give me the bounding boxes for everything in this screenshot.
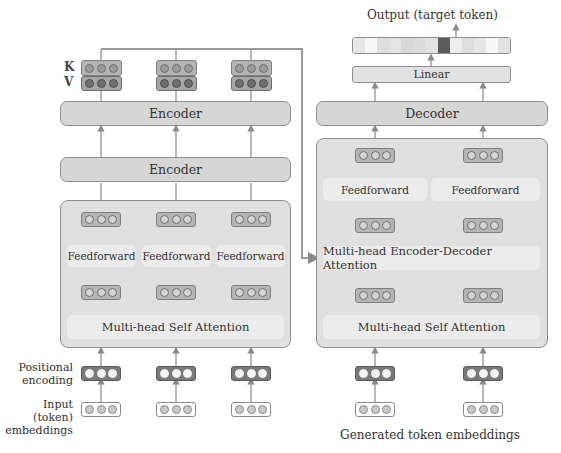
- decoder-cross-attention-output-vector-2: [463, 218, 503, 233]
- output-cell: [377, 38, 389, 53]
- positional-encoding-vector-2: [156, 366, 196, 381]
- k-label: K: [64, 60, 74, 74]
- decoder-self-attention-output-vector-2: [463, 288, 503, 303]
- positional-encoding-vector-1: [81, 366, 121, 381]
- generated-embedding-vector-1: [355, 402, 395, 417]
- decoder-feedforward-2: Feedforward: [431, 178, 540, 201]
- decoder-ffn-output-vector-1: [355, 148, 395, 163]
- output-cell: [365, 38, 377, 53]
- positional-encoding-label: Positional encoding: [0, 361, 73, 387]
- decoder-top: Decoder: [316, 101, 548, 126]
- encoder-ffn-output-vector-1: [81, 212, 121, 227]
- input-embedding-vector-1: [81, 402, 121, 417]
- encoder-self-attention: Multi-head Self Attention: [67, 315, 284, 339]
- decoder-positional-encoding-vector-2: [463, 366, 503, 381]
- output-distribution: [352, 37, 511, 54]
- generated-embeddings-label: Generated token embeddings: [330, 428, 530, 442]
- encoder-top: Encoder: [60, 101, 291, 126]
- positional-encoding-vector-3: [231, 366, 271, 381]
- output-cell: [462, 38, 474, 53]
- output-cell: [498, 38, 510, 53]
- key-vector-2: [156, 60, 197, 76]
- positional-encoding-line1: Positional: [0, 361, 73, 374]
- input-embeddings-line1: Input (token): [0, 398, 73, 424]
- decoder-cross-attention-output-vector-1: [355, 218, 395, 233]
- input-embedding-vector-3: [231, 402, 271, 417]
- encoder-attention-output-vector-2: [156, 285, 196, 300]
- input-embedding-vector-2: [156, 402, 196, 417]
- input-embeddings-label: Input (token) embeddings: [0, 398, 73, 437]
- output-cell: [486, 38, 498, 53]
- encoder-second: Encoder: [60, 157, 291, 182]
- positional-encoding-line2: encoding: [0, 374, 73, 387]
- value-vector-1: [81, 76, 122, 91]
- encoder-ffn-output-vector-3: [231, 212, 271, 227]
- key-vector-3: [231, 60, 272, 76]
- encoder-attention-output-vector-1: [81, 285, 121, 300]
- decoder-self-attention: Multi-head Self Attention: [323, 315, 540, 339]
- value-vector-3: [231, 76, 272, 91]
- encoder-attention-output-vector-3: [231, 285, 271, 300]
- output-cell: [425, 38, 437, 53]
- encoder-decoder-attention: Multi-head Encoder-Decoder Attention: [323, 246, 540, 270]
- output-cell: [353, 38, 365, 53]
- decoder-ffn-output-vector-2: [463, 148, 503, 163]
- value-vector-2: [156, 76, 197, 91]
- decoder-feedforward-1: Feedforward: [323, 178, 427, 201]
- encoder-ffn-output-vector-2: [156, 212, 196, 227]
- output-cell: [474, 38, 486, 53]
- output-cell: [401, 38, 413, 53]
- output-cell: [450, 38, 462, 53]
- linear-layer: Linear: [352, 66, 511, 83]
- encoder-feedforward-1: Feedforward: [67, 245, 136, 267]
- input-embeddings-line2: embeddings: [0, 424, 73, 437]
- decoder-positional-encoding-vector-1: [355, 366, 395, 381]
- output-label: Output (target token): [350, 8, 515, 22]
- selected-token-cell: [438, 38, 450, 53]
- encoder-feedforward-3: Feedforward: [216, 245, 285, 267]
- v-label: V: [64, 75, 73, 89]
- output-cell: [413, 38, 425, 53]
- key-vector-1: [81, 60, 122, 76]
- output-cell: [389, 38, 401, 53]
- decoder-self-attention-output-vector-1: [355, 288, 395, 303]
- generated-embedding-vector-2: [463, 402, 503, 417]
- encoder-feedforward-2: Feedforward: [142, 245, 211, 267]
